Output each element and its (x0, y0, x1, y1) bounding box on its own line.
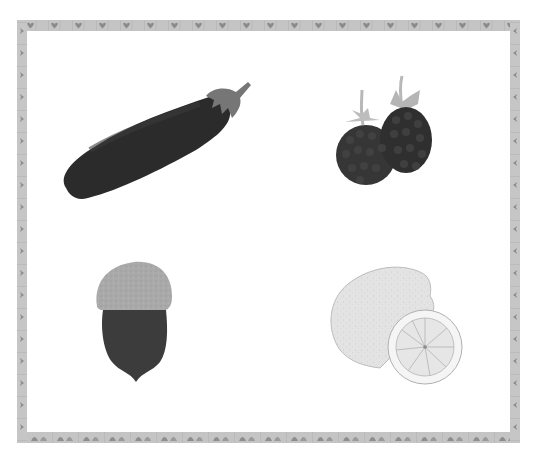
decorative-border (17, 20, 520, 443)
border-top (17, 20, 520, 31)
illustration-card (0, 0, 534, 458)
border-right (510, 20, 520, 443)
lemon-slice (388, 310, 462, 384)
border-left (17, 20, 27, 443)
border-bottom (17, 432, 520, 443)
